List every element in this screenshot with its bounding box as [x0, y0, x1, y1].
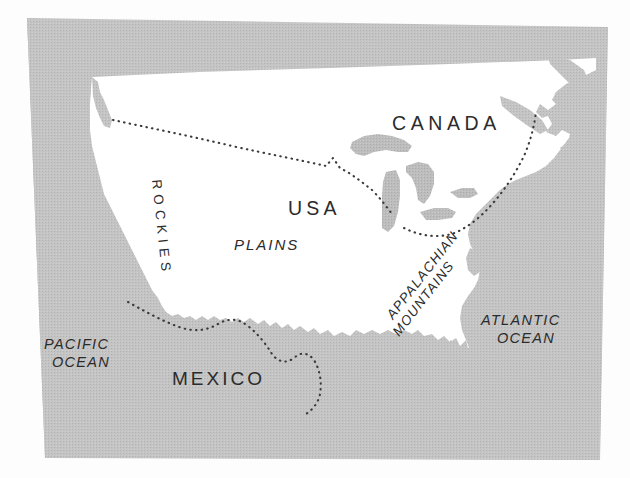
- label-pacific-ocean-line2: OCEAN: [52, 354, 110, 370]
- label-pacific-ocean-line1: PACIFIC: [44, 336, 109, 352]
- label-canada: CANADA: [392, 112, 501, 134]
- label-plains: PLAINS: [234, 236, 299, 253]
- label-atlantic-ocean-line1: ATLANTIC: [480, 312, 560, 328]
- label-mexico: MEXICO: [172, 368, 265, 389]
- map-figure: CANADA USA PLAINS MEXICO ROCKIES APPALAC…: [0, 0, 630, 478]
- label-atlantic-ocean-line2: OCEAN: [497, 330, 555, 346]
- label-usa: USA: [288, 197, 341, 219]
- map-canvas: CANADA USA PLAINS MEXICO ROCKIES APPALAC…: [0, 0, 630, 478]
